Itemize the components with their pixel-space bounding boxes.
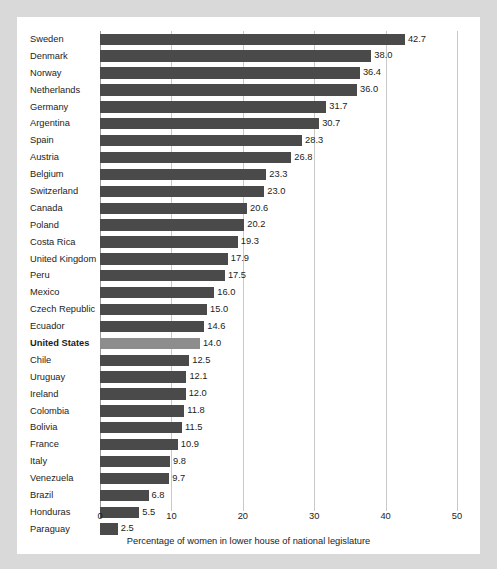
bar-rows: Sweden42.7Denmark38.0Norway36.4Netherlan…: [17, 31, 480, 538]
category-label: Poland: [17, 217, 90, 234]
bar: [100, 439, 178, 450]
bar-row: Belgium23.3: [17, 166, 480, 183]
bar-row: Italy9.8: [17, 453, 480, 470]
bar-value-label: 16.0: [217, 286, 235, 299]
bar: [100, 67, 360, 78]
bar-value-label: 12.5: [192, 354, 210, 367]
x-tick-label: 50: [452, 511, 462, 521]
bar-row: Sweden42.7: [17, 31, 480, 48]
bar: [100, 203, 247, 214]
x-axis: 01020304050: [17, 511, 480, 531]
category-label: Brazil: [17, 487, 90, 504]
bar-row: France10.9: [17, 436, 480, 453]
bar-value-label: 26.8: [294, 151, 312, 164]
bar-row: Ecuador14.6: [17, 318, 480, 335]
x-tick-label: 0: [97, 511, 102, 521]
category-label: Venezuela: [17, 470, 90, 487]
bar-value-label: 28.3: [305, 134, 323, 147]
bar-row: Norway36.4: [17, 65, 480, 82]
bar: [100, 371, 186, 382]
bar-row: Germany31.7: [17, 99, 480, 116]
bar: [100, 405, 184, 416]
bar-row: Austria26.8: [17, 149, 480, 166]
bar-value-label: 11.8: [187, 404, 204, 417]
chart-card: Sweden42.7Denmark38.0Norway36.4Netherlan…: [17, 17, 480, 554]
bar-value-label: 6.8: [152, 489, 165, 502]
x-tick-label: 10: [166, 511, 176, 521]
bar-value-label: 12.0: [189, 387, 207, 400]
bar-value-label: 36.4: [363, 66, 381, 79]
x-tick-label: 40: [380, 511, 390, 521]
bar: [100, 236, 238, 247]
category-label: Belgium: [17, 166, 90, 183]
bar-value-label: 31.7: [329, 100, 347, 113]
bar-row: United Kingdom17.9: [17, 251, 480, 268]
category-label: Canada: [17, 200, 90, 217]
bar: [100, 135, 302, 146]
bar: [100, 186, 264, 197]
figure-root: Sweden42.7Denmark38.0Norway36.4Netherlan…: [0, 0, 497, 569]
category-label: Bolivia: [17, 419, 90, 436]
bar-value-label: 23.0: [267, 185, 285, 198]
bar-value-label: 20.2: [247, 218, 265, 231]
bar-row: Chile12.5: [17, 352, 480, 369]
bar: [100, 253, 228, 264]
x-tick-label: 30: [309, 511, 319, 521]
category-label: Norway: [17, 65, 90, 82]
bar-row: Denmark38.0: [17, 48, 480, 65]
bar: [100, 304, 207, 315]
bar-row: Switzerland23.0: [17, 183, 480, 200]
bar-row: Brazil6.8: [17, 487, 480, 504]
bar-value-label: 38.0: [374, 49, 392, 62]
bar-value-label: 23.3: [269, 168, 287, 181]
bar: [100, 84, 357, 95]
bar: [100, 456, 170, 467]
bar: [100, 219, 244, 230]
bar: [100, 270, 225, 281]
category-label: Sweden: [17, 31, 90, 48]
bar-chart-plot: Sweden42.7Denmark38.0Norway36.4Netherlan…: [17, 17, 480, 554]
bar-value-label: 14.6: [207, 320, 225, 333]
bar-row: Peru17.5: [17, 267, 480, 284]
bar-row: Colombia11.8: [17, 403, 480, 420]
bar-value-label: 9.8: [173, 455, 186, 468]
category-label: Netherlands: [17, 82, 90, 99]
bar-value-label: 10.9: [181, 438, 199, 451]
category-label: Switzerland: [17, 183, 90, 200]
bar-value-label: 19.3: [241, 235, 259, 248]
category-label: Costa Rica: [17, 234, 90, 251]
bar-row: Argentina30.7: [17, 115, 480, 132]
bar-row: United States14.0: [17, 335, 480, 352]
bar: [100, 50, 371, 61]
bar-value-label: 15.0: [210, 303, 228, 316]
category-label: Germany: [17, 99, 90, 116]
bar-row: Bolivia11.5: [17, 419, 480, 436]
bar: [100, 169, 266, 180]
category-label: Spain: [17, 132, 90, 149]
bar-value-label: 17.5: [228, 269, 246, 282]
bar-row: Spain28.3: [17, 132, 480, 149]
bar-row: Canada20.6: [17, 200, 480, 217]
bar: [100, 321, 204, 332]
bar: [100, 152, 291, 163]
bar: [100, 355, 189, 366]
bar-row: Ireland12.0: [17, 386, 480, 403]
category-label: United Kingdom: [17, 251, 90, 268]
bar-row: Venezuela9.7: [17, 470, 480, 487]
bar-value-label: 30.7: [322, 117, 340, 130]
bar-value-label: 17.9: [231, 252, 249, 265]
bar-row: Mexico16.0: [17, 284, 480, 301]
category-label: Czech Republic: [17, 301, 90, 318]
bar: [100, 490, 149, 501]
bar: [100, 473, 169, 484]
category-label: Chile: [17, 352, 90, 369]
bar: [100, 388, 186, 399]
bar-row: Poland20.2: [17, 217, 480, 234]
category-label: Peru: [17, 267, 90, 284]
category-label: Denmark: [17, 48, 90, 65]
bar: [100, 422, 182, 433]
bar-value-label: 14.0: [203, 337, 221, 350]
x-tick-label: 20: [238, 511, 248, 521]
category-label: Colombia: [17, 403, 90, 420]
category-label: United States: [17, 335, 90, 352]
